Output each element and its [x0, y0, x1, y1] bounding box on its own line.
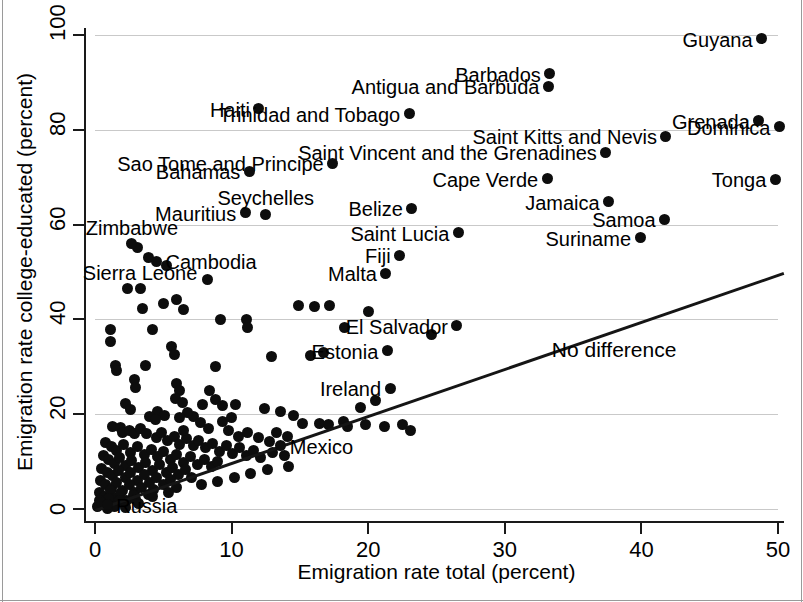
data-point-fiji [394, 250, 405, 261]
data-point [178, 304, 189, 315]
data-point-saint-kitts-and-nevis [660, 131, 671, 142]
data-point [159, 410, 170, 421]
data-point [279, 450, 290, 461]
data-point [259, 403, 270, 414]
data-point [324, 300, 335, 311]
data-point [266, 351, 277, 362]
data-point-estonia [382, 345, 393, 356]
data-point [137, 303, 148, 314]
y-tick-mark-60 [73, 224, 84, 226]
data-point [171, 294, 182, 305]
data-point-russia [102, 499, 113, 510]
point-label-trinidad-and-tobago: Trinidad and Tobago [219, 105, 400, 125]
data-point-malta [380, 268, 391, 279]
data-point [297, 418, 308, 429]
point-label-russia: Russia [116, 496, 177, 516]
data-point [217, 400, 228, 411]
x-tick-label-30: 30 [493, 537, 517, 563]
data-point [150, 414, 161, 425]
point-label-el-salvador: El Salvador [346, 317, 448, 337]
data-point [210, 361, 221, 372]
data-point [379, 421, 390, 432]
point-label-ireland: Ireland [320, 379, 381, 399]
x-tick-mark-20 [367, 523, 369, 534]
y-tick-mark-100 [73, 34, 84, 36]
figure-border-left [2, 0, 3, 602]
point-label-tonga: Tonga [712, 170, 767, 190]
x-tick-mark-10 [231, 523, 233, 534]
y-tick-label-80: 80 [45, 124, 71, 136]
data-point [215, 314, 226, 325]
data-point-jamaica [603, 196, 614, 207]
point-label-suriname: Suriname [545, 229, 631, 249]
data-point-belize [406, 203, 417, 214]
data-point [264, 436, 275, 447]
data-point-bahamas [244, 166, 255, 177]
point-label-estonia: Estonia [312, 342, 379, 362]
data-point-samoa [659, 214, 670, 225]
data-point [105, 324, 116, 335]
data-point [226, 412, 237, 423]
data-point [253, 432, 264, 443]
x-axis-title: Emigration rate total (percent) [95, 560, 778, 584]
data-point [212, 476, 223, 487]
data-point [230, 399, 241, 410]
point-label-dominica: Dominica [687, 118, 770, 138]
y-tick-mark-0 [73, 508, 84, 510]
data-point [177, 397, 188, 408]
x-tick-label-40: 40 [629, 537, 653, 563]
data-point [202, 274, 213, 285]
y-tick-label-100: 100 [45, 29, 71, 41]
x-tick-mark-30 [504, 523, 506, 534]
data-point [242, 427, 253, 438]
data-point [169, 349, 180, 360]
point-label-mexico: Mexico [290, 437, 353, 457]
data-point-saint-lucia [453, 227, 464, 238]
data-point-el-salvador [451, 320, 462, 331]
data-point [174, 412, 185, 423]
data-point [140, 360, 151, 371]
figure-border-right [801, 0, 802, 602]
data-point [147, 324, 158, 335]
point-label-bahamas: Bahamas [156, 162, 241, 182]
data-point-cape-verde [542, 173, 553, 184]
y-tick-mark-80 [73, 129, 84, 131]
point-label-seychelles: Seychelles [217, 188, 314, 208]
data-point [130, 382, 141, 393]
data-point-sao-tome-and-principe [327, 158, 338, 169]
data-point [405, 425, 416, 436]
data-point-trinidad-and-tobago [404, 108, 415, 119]
data-point [122, 283, 133, 294]
data-point-antigua-and-barbuda [543, 81, 554, 92]
scatter-plot-figure: Emigration rate college-educated (percen… [0, 0, 803, 602]
annotation-no-difference: No difference [552, 338, 677, 362]
data-point [242, 322, 253, 333]
data-point [275, 406, 286, 417]
point-label-jamaica: Jamaica [525, 193, 599, 213]
data-point [203, 423, 214, 434]
data-point [309, 301, 320, 312]
data-point [245, 468, 256, 479]
point-label-saint-lucia: Saint Lucia [350, 224, 449, 244]
y-tick-label-60: 60 [45, 219, 71, 231]
data-point-suriname [635, 232, 646, 243]
point-label-sierra-leone: Sierra Leone [83, 263, 198, 283]
x-tick-mark-50 [777, 523, 779, 534]
figure-border-bottom [0, 600, 803, 601]
data-point [229, 472, 240, 483]
data-point [271, 427, 282, 438]
point-label-belize: Belize [348, 199, 402, 219]
gridline-y-0 [95, 509, 778, 510]
identity-line [95, 272, 784, 512]
x-tick-mark-0 [94, 523, 96, 534]
data-point [283, 461, 294, 472]
data-point [105, 336, 116, 347]
y-tick-mark-40 [73, 318, 84, 320]
x-tick-label-20: 20 [356, 537, 380, 563]
point-label-saint-vincent-and-the-grenadines: Saint Vincent and the Grenadines [298, 143, 597, 163]
x-tick-mark-40 [640, 523, 642, 534]
data-point [111, 365, 122, 376]
y-tick-label-20: 20 [45, 408, 71, 420]
x-axis-line [84, 521, 784, 523]
data-point-saint-vincent-and-the-grenadines [600, 147, 611, 158]
